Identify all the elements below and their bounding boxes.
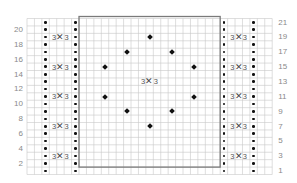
purl-stitch-dot [74,80,77,83]
purl-stitch-dot [74,132,77,135]
purl-stitch-dot [223,80,226,83]
cable-count-right: 3 [65,152,69,161]
purl-stitch-dot [252,73,255,76]
row-number-left: 2 [7,160,23,168]
purl-stitch-dot [223,110,226,113]
purl-stitch-dot [44,28,47,31]
cable-cross-icon: ✕ [235,32,243,42]
row-number-left: 8 [7,115,23,123]
purl-stitch-dot [252,110,255,113]
cable-cross-icon: ✕ [235,62,243,72]
row-number-right: 5 [278,137,294,145]
row-number-left: 20 [7,26,23,34]
purl-stitch-dot [74,28,77,31]
cable-3x3-right: 3✕3 [224,123,254,130]
purl-stitch-dot [223,147,226,150]
cable-count-right: 3 [65,92,69,101]
row-number-right: 15 [278,63,294,71]
purl-stitch-dot [252,51,255,54]
purl-stitch-dot [44,110,47,113]
purl-stitch-dot [223,73,226,76]
purl-stitch-dot [74,58,77,61]
cable-3x3-left: 3✕3 [45,64,75,71]
purl-stitch-dot [252,28,255,31]
cable-cross-icon: ✕ [56,91,64,101]
row-number-left: 4 [7,145,23,153]
purl-stitch-dot [44,118,47,121]
cable-cross-icon: ✕ [56,62,64,72]
purl-stitch-dot [74,21,77,24]
cable-3x3-left: 3✕3 [45,153,75,160]
cable-3x3-left: 3✕3 [45,93,75,100]
cable-count-right: 3 [243,92,247,101]
purl-stitch-dot [74,103,77,106]
purl-stitch-dot [74,170,77,173]
purl-stitch-dot [74,162,77,165]
purl-stitch-dot [74,110,77,113]
purl-stitch-dot [252,147,255,150]
cable-count-right: 3 [65,63,69,72]
row-number-left: 12 [7,85,23,93]
purl-stitch-dot [44,73,47,76]
knitting-chart: 2018161412108642211917151311975313✕33✕33… [0,0,297,183]
purl-stitch-dot [74,51,77,54]
row-number-right: 13 [278,78,294,86]
cable-cross-icon: ✕ [235,91,243,101]
cable-3x3-right: 3✕3 [224,93,254,100]
purl-stitch-dot [74,43,77,46]
cable-3x3-left: 3✕3 [45,123,75,130]
purl-stitch-dot [223,21,226,24]
cable-count-right: 3 [243,33,247,42]
purl-stitch-dot [252,58,255,61]
purl-stitch-dot [44,103,47,106]
cable-count-right: 3 [65,122,69,131]
cable-3x3-center: 3✕3 [135,78,165,85]
purl-stitch-dot [44,51,47,54]
cable-count-right: 3 [243,122,247,131]
row-number-left: 18 [7,41,23,49]
purl-stitch-dot [252,43,255,46]
row-number-right: 7 [278,123,294,131]
purl-stitch-dot [44,162,47,165]
row-number-right: 11 [278,93,294,101]
cable-cross-icon: ✕ [235,121,243,131]
purl-stitch-dot [252,80,255,83]
row-number-left: 14 [7,71,23,79]
cable-3x3-right: 3✕3 [224,64,254,71]
purl-stitch-dot [252,103,255,106]
cable-count-right: 3 [243,63,247,72]
purl-stitch-dot [223,58,226,61]
purl-stitch-dot [44,147,47,150]
purl-stitch-dot [44,170,47,173]
cable-count-right: 3 [65,33,69,42]
cable-cross-icon: ✕ [56,151,64,161]
cable-cross-icon: ✕ [56,121,64,131]
row-number-right: 9 [278,108,294,116]
purl-stitch-dot [44,80,47,83]
row-number-left: 10 [7,100,23,108]
purl-stitch-dot [74,73,77,76]
purl-stitch-dot [252,21,255,24]
cable-cross-icon: ✕ [235,151,243,161]
purl-stitch-dot [223,43,226,46]
purl-stitch-dot [74,147,77,150]
purl-stitch-dot [252,132,255,135]
purl-stitch-dot [74,118,77,121]
purl-stitch-dot [44,132,47,135]
purl-stitch-dot [252,162,255,165]
purl-stitch-dot [44,43,47,46]
row-number-right: 1 [278,167,294,175]
row-number-right: 21 [278,19,294,27]
row-number-right: 17 [278,48,294,56]
purl-stitch-dot [223,162,226,165]
purl-stitch-dot [252,118,255,121]
purl-stitch-dot [252,170,255,173]
cable-cross-icon: ✕ [145,76,153,86]
purl-stitch-dot [44,58,47,61]
purl-stitch-dot [223,28,226,31]
purl-stitch-dot [223,132,226,135]
purl-stitch-dot [44,21,47,24]
row-number-left: 16 [7,56,23,64]
cable-cross-icon: ✕ [56,32,64,42]
cable-count-right: 3 [243,152,247,161]
